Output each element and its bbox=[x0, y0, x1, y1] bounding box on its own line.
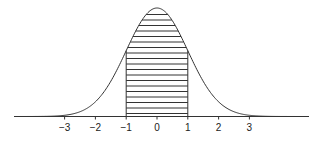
x-tick-label: 3 bbox=[247, 122, 253, 133]
x-tick-label: −1 bbox=[120, 122, 132, 133]
shaded-region-hatching bbox=[126, 15, 188, 114]
x-tick-label: −3 bbox=[59, 122, 71, 133]
normal-curve bbox=[15, 8, 308, 117]
x-tick-label: 2 bbox=[216, 122, 222, 133]
x-tick-label: 0 bbox=[154, 122, 160, 133]
x-tick-label: −2 bbox=[90, 122, 102, 133]
normal-distribution-chart: −3−2−10123 bbox=[0, 0, 327, 142]
x-tick-label: 1 bbox=[185, 122, 191, 133]
x-axis-ticks: −3−2−10123 bbox=[59, 117, 253, 133]
